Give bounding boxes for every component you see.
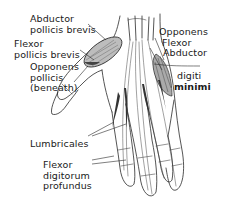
label-digiti-minimi: digiti minimi (174, 71, 211, 92)
label-line: Flexor (43, 160, 92, 171)
label-flexor-digitorum-profundus: Flexor digitorum profundus (43, 160, 92, 192)
label-line: pollicis brevis (30, 25, 96, 36)
label-line: Abductor (159, 48, 208, 59)
label-line: (beneath) (30, 83, 79, 94)
label-line: profundus (43, 181, 92, 192)
label-line: Lumbricales (30, 139, 89, 150)
label-line: pollicis brevis (14, 50, 80, 61)
label-line: digiti (174, 71, 211, 82)
hypothenar-muscles (153, 54, 172, 96)
label-line: Opponens (159, 27, 208, 38)
label-flexor-pollicis-brevis: Flexor pollicis brevis (14, 39, 80, 60)
hand-muscle-diagram: Abductor pollicis brevis Flexor pollicis… (0, 0, 226, 204)
label-lumbricales: Lumbricales (30, 139, 89, 150)
label-hypothenar-group: Opponens Flexor Abductor (159, 27, 208, 59)
wrist-outline-left (112, 16, 120, 40)
label-line: minimi (174, 82, 211, 93)
label-opponens-pollicis: Opponens pollicis (beneath) (30, 62, 79, 94)
label-line: Opponens (30, 62, 79, 73)
label-line: Abductor (30, 14, 96, 25)
label-line: Flexor (14, 39, 80, 50)
label-abductor-pollicis-brevis: Abductor pollicis brevis (30, 14, 96, 35)
